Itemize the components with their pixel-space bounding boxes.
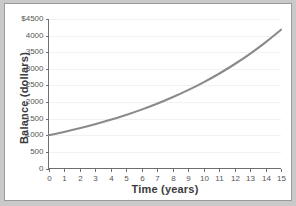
x-tick-label: 7 (151, 174, 165, 183)
x-tick-label: 15 (275, 174, 289, 183)
x-tick-label: 9 (182, 174, 196, 183)
chart-figure: 05001000150020002500300035004000$4500 01… (0, 0, 296, 206)
x-tick-label: 1 (58, 174, 72, 183)
x-tick-label: 12 (229, 174, 243, 183)
x-tick-label: 6 (136, 174, 150, 183)
x-tick-label: 13 (244, 174, 258, 183)
y-axis-title: Balance (dollars) (18, 28, 30, 168)
x-tick-label: 5 (120, 174, 134, 183)
plot-background (48, 19, 281, 168)
y-tick-label: $4500 (8, 14, 44, 23)
x-tick-label: 8 (167, 174, 181, 183)
x-tick-label: 10 (198, 174, 212, 183)
chart-page: 05001000150020002500300035004000$4500 01… (0, 0, 296, 206)
x-tick-label: 2 (74, 174, 88, 183)
x-tick-label: 4 (105, 174, 119, 183)
x-axis-title: Time (years) (48, 183, 282, 195)
x-tick-label: 14 (260, 174, 274, 183)
x-tick-label: 3 (89, 174, 103, 183)
x-tick-label: 0 (43, 174, 57, 183)
x-tick-label: 11 (213, 174, 227, 183)
